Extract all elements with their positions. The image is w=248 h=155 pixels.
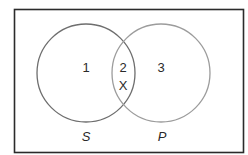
- set-p-label: P: [158, 130, 167, 143]
- set-s-label: S: [82, 130, 91, 143]
- x-mark-label: X: [119, 79, 128, 92]
- region-3-label: 3: [157, 61, 164, 74]
- region-1-label: 1: [82, 61, 89, 74]
- region-2-label: 2: [119, 61, 126, 74]
